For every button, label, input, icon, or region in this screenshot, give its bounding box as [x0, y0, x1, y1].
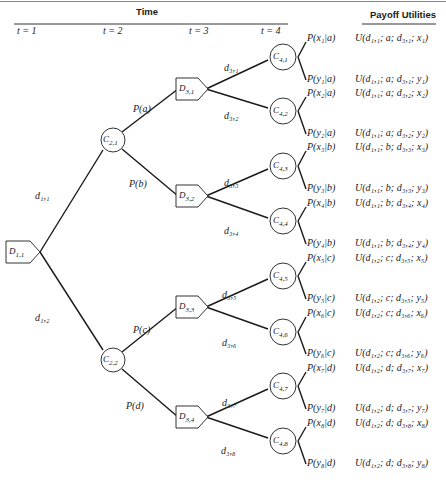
outcome-probability: P(x₈|d) [307, 417, 335, 428]
node-label-c22: C2,2 [103, 354, 118, 369]
branch-label: d₃,₄ [224, 225, 238, 236]
node-label-c45: C4,5 [273, 270, 288, 285]
payoff-utility: U(d₁,₂; c; d₃,₆; y₆) [355, 347, 428, 358]
outcome-probability: P(y₄|b) [307, 237, 335, 248]
payoff-utility: U(d₁,₁; a; d₃,₁; y₁) [355, 73, 428, 84]
payoff-utility: U(d₁,₁; a; d₃,₂; y₂) [355, 127, 428, 138]
node-label-c41: C4,1 [273, 51, 288, 66]
chance-nodes [101, 44, 296, 454]
outcome-probability: P(x₄|b) [307, 197, 335, 208]
branch-label: d₃,₆ [222, 337, 236, 348]
payoff-utility: U(d₁,₁; a; d₃,₂; x₂) [355, 87, 428, 98]
outcome-probability: P(y₈|d) [307, 457, 335, 468]
node-label-c44: C4,4 [273, 215, 288, 230]
time-step-4: t = 4 [261, 25, 281, 36]
node-label-d33: D3,3 [179, 301, 194, 316]
payoff-utility: U(d₁,₂; c; d₃,₅; y₅) [355, 292, 428, 303]
node-label-c47: C4,7 [273, 380, 288, 395]
payoff-utility: U(d₁,₁; b; d₃,₄; y₄) [355, 237, 428, 248]
time-step-2: t = 2 [103, 25, 123, 36]
outcome-probability: P(y₁|a) [307, 73, 335, 84]
outcome-probability: P(x₇|d) [307, 362, 335, 373]
branch-label: P(a) [133, 103, 151, 114]
node-label-c48: C4,8 [273, 435, 288, 450]
payoff-utility: U(d₁,₁; b; d₃,₃; x₃) [355, 141, 428, 152]
node-label-c46: C4,6 [273, 326, 288, 341]
branch-label: P(c) [133, 324, 150, 335]
outcome-probability: P(x₂|a) [307, 87, 335, 98]
time-step-3: t = 3 [189, 25, 209, 36]
payoff-utility: U(d₁,₂; d; d₃,₈; y₈) [355, 457, 428, 468]
branch-label: P(b) [129, 178, 147, 189]
node-label-d34: D3,4 [179, 411, 194, 426]
time-header: Time [136, 6, 158, 17]
outcome-probability: P(x₆|c) [307, 307, 335, 318]
outcome-probability: P(y₇|d) [307, 402, 335, 413]
payoff-utility: U(d₁,₂; d; d₃,₇; x₇) [355, 362, 428, 373]
branch-label: d₃,₃ [224, 177, 238, 188]
time-step-1: t = 1 [17, 25, 37, 36]
outcome-probability: P(x₃|b) [307, 141, 335, 152]
branch-label: d₁,₁ [35, 190, 49, 201]
branch-label: P(d) [126, 400, 144, 411]
outcome-probability: P(x₁|a) [307, 32, 335, 43]
tree-edges [40, 42, 306, 464]
outcome-probability: P(y₅|c) [307, 292, 335, 303]
outcome-probability: P(y₃|b) [307, 182, 335, 193]
branch-label: d₃,₈ [221, 445, 235, 456]
node-label-d32: D3,2 [179, 190, 194, 205]
branch-label: d₁,₂ [35, 312, 49, 323]
node-label-d11: D1,1 [9, 246, 24, 261]
payoff-utility: U(d₁,₁; b; d₃,₃; y₃) [355, 182, 428, 193]
branch-label: d₃,₇ [222, 397, 236, 408]
node-label-c21: C2,1 [103, 134, 118, 149]
node-label-c43: C4,3 [273, 160, 288, 175]
payoff-utility: U(d₁,₁; b; d₃,₄; x₄) [355, 197, 428, 208]
outcome-probability: P(y₂|a) [307, 127, 335, 138]
payoff-utilities-header: Payoff Utilities [370, 9, 436, 20]
payoff-utility: U(d₁,₂; c; d₃,₆; x₆) [355, 307, 428, 318]
branch-label: d₃,₁ [224, 62, 238, 73]
payoff-utility: U(d₁,₂; d; d₃,₈; x₈) [355, 417, 428, 428]
outcome-probability: P(y₆|c) [307, 347, 335, 358]
payoff-utility: U(d₁,₂; c; d₃,₅; x₅) [355, 252, 428, 263]
payoff-utility: U(d₁,₁; a; d₃,₁; x₁) [355, 32, 428, 43]
branch-label: d₃,₅ [222, 289, 236, 300]
node-label-c42: C4,2 [273, 105, 288, 120]
outcome-probability: P(x₅|c) [307, 252, 335, 263]
payoff-utility: U(d₁,₂; d; d₃,₇; y₇) [355, 402, 428, 413]
node-label-d31: D3,1 [179, 83, 194, 98]
branch-label: d₃,₂ [224, 110, 238, 121]
